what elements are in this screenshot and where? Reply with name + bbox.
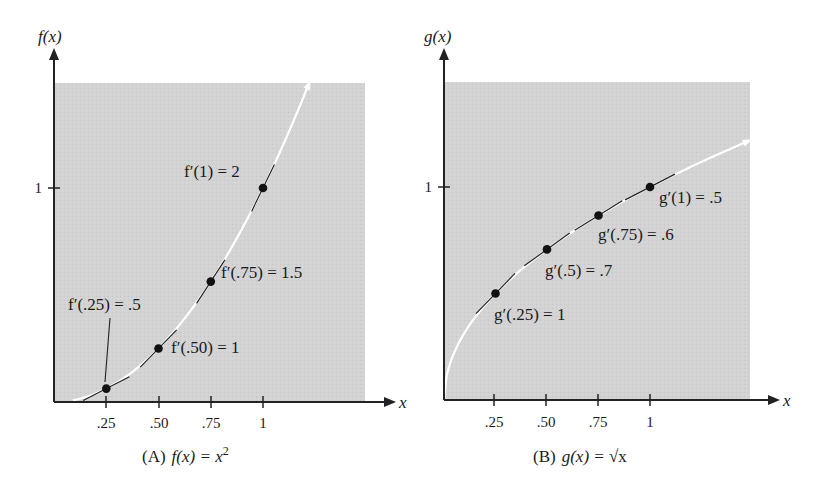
x-tick-label: .50 (537, 414, 556, 430)
data-point (259, 184, 268, 193)
point-label: g′(.25) = 1 (494, 305, 565, 324)
point-label: g′(.75) = .6 (598, 225, 674, 244)
chart-b: .25 .50 .75 1 1 g(x) x g′(1) = .5 g′(.75… (424, 27, 791, 466)
point-label: f′(.50) = 1 (171, 338, 240, 357)
y-tick-label: 1 (35, 180, 43, 196)
data-point (154, 344, 163, 353)
y-axis-arrow-icon (439, 48, 449, 60)
data-point (102, 384, 111, 393)
caption-b: (B)g(x) = √x (533, 447, 627, 466)
x-tick-label: .25 (97, 415, 116, 431)
point-label: f′(.75) = 1.5 (221, 263, 302, 282)
y-axis-label-b: g(x) (424, 27, 452, 46)
chart-a: .25 .50 .75 1 1 f(x) x f′(1) = 2 f′(.75)… (35, 27, 408, 466)
figure: .25 .50 .75 1 1 f(x) x f′(1) = 2 f′(.75)… (0, 0, 828, 487)
point-label: g′(1) = .5 (659, 188, 722, 207)
y-tick-label: 1 (425, 179, 433, 195)
point-label: g′(.5) = .7 (545, 261, 613, 280)
x-axis-arrow-icon (384, 397, 396, 407)
x-tick-label: .75 (202, 415, 221, 431)
x-tick-label: 1 (646, 414, 654, 430)
x-axis-label-b: x (782, 391, 791, 410)
caption-a: (A)f(x) = x2 (142, 444, 229, 466)
x-tick-label: .25 (485, 414, 504, 430)
y-axis-arrow-icon (49, 48, 59, 60)
data-point (543, 245, 552, 254)
data-point (491, 289, 500, 298)
x-tick-label: .75 (589, 414, 608, 430)
point-label: f′(.25) = .5 (68, 295, 141, 314)
x-axis-arrow-icon (768, 395, 780, 405)
data-point (594, 211, 603, 220)
x-tick-label: .50 (150, 415, 169, 431)
x-axis-label-a: x (398, 393, 407, 412)
point-label: f′(1) = 2 (184, 162, 240, 181)
data-point (207, 277, 216, 286)
y-axis-label-a: f(x) (38, 27, 62, 46)
data-point (646, 183, 655, 192)
x-tick-label: 1 (259, 415, 267, 431)
